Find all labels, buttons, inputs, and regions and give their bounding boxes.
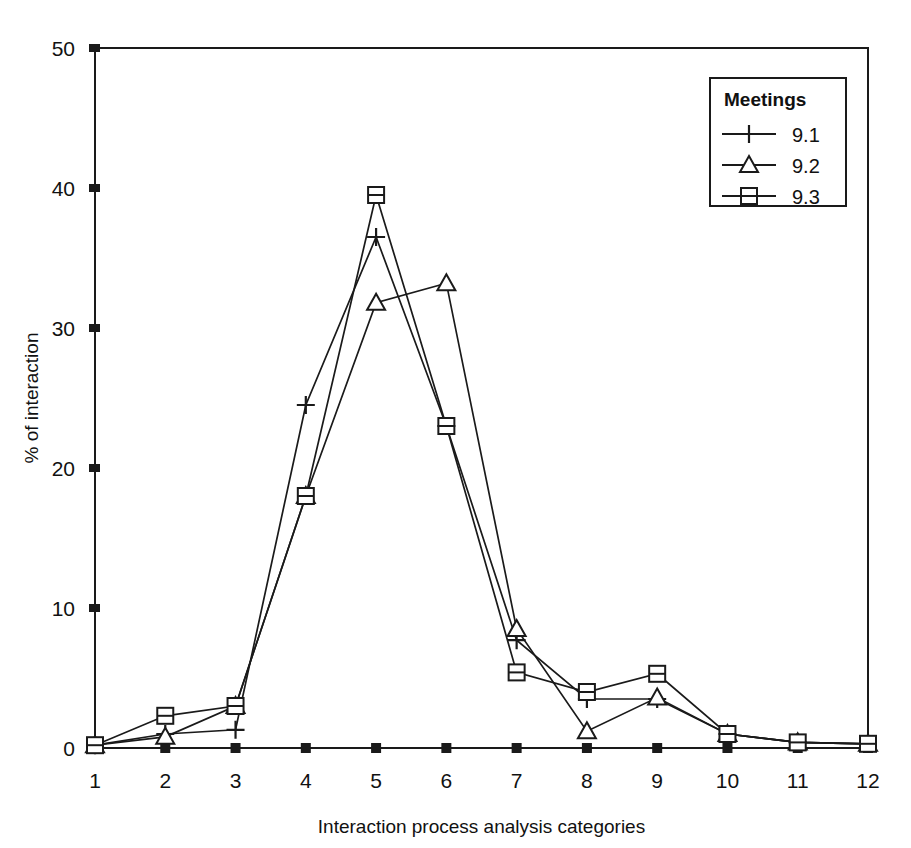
x-tick-label: 9 xyxy=(651,769,663,792)
legend-label: 9.2 xyxy=(792,155,820,177)
x-tick xyxy=(722,743,732,753)
marker-plus-icon xyxy=(297,396,315,414)
marker-plus-icon xyxy=(227,721,245,739)
x-tick xyxy=(441,743,451,753)
line-chart: 01020304050123456789101112Interaction pr… xyxy=(0,0,911,848)
x-axis-title: Interaction process analysis categories xyxy=(318,816,645,837)
series-9-3 xyxy=(87,187,876,753)
series-line xyxy=(95,195,868,745)
y-tick xyxy=(89,184,100,192)
series-9-2 xyxy=(86,274,877,752)
x-tick xyxy=(371,743,381,753)
x-tick-label: 3 xyxy=(230,769,242,792)
x-tick xyxy=(652,743,662,753)
y-tick-label: 30 xyxy=(52,317,75,340)
series-9-1 xyxy=(86,228,877,754)
y-tick xyxy=(89,44,100,52)
marker-triangle-icon xyxy=(578,722,596,738)
y-tick xyxy=(89,464,100,472)
x-tick-label: 1 xyxy=(89,769,101,792)
y-tick-label: 20 xyxy=(52,457,75,480)
x-tick xyxy=(231,743,241,753)
legend-label: 9.1 xyxy=(792,124,820,146)
legend-label: 9.3 xyxy=(792,186,820,208)
x-tick xyxy=(301,743,311,753)
chart-figure: 01020304050123456789101112Interaction pr… xyxy=(0,0,911,848)
marker-triangle-icon xyxy=(437,274,455,290)
x-tick xyxy=(512,743,522,753)
x-tick-label: 4 xyxy=(300,769,312,792)
x-tick-label: 2 xyxy=(159,769,171,792)
y-tick xyxy=(89,324,100,332)
x-tick-label: 10 xyxy=(716,769,739,792)
marker-triangle-icon xyxy=(648,689,666,705)
legend: Meetings9.19.29.3 xyxy=(710,78,846,208)
series-line xyxy=(95,237,868,745)
y-tick-label: 50 xyxy=(52,37,75,60)
x-tick-label: 12 xyxy=(856,769,879,792)
y-tick-label: 0 xyxy=(63,737,75,760)
series-line xyxy=(95,283,868,745)
x-tick-label: 7 xyxy=(511,769,523,792)
x-tick-label: 8 xyxy=(581,769,593,792)
y-tick xyxy=(89,604,100,612)
y-tick-label: 10 xyxy=(52,597,75,620)
y-axis-title: % of interaction xyxy=(21,333,42,464)
x-tick xyxy=(582,743,592,753)
x-tick-label: 11 xyxy=(787,769,809,792)
legend-title: Meetings xyxy=(724,89,806,110)
y-tick-label: 40 xyxy=(52,177,75,200)
marker-plus-icon xyxy=(367,228,385,246)
x-tick-label: 5 xyxy=(370,769,382,792)
x-tick-label: 6 xyxy=(441,769,453,792)
